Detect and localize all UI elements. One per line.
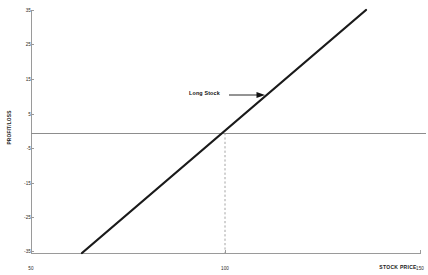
long-stock-payoff-line xyxy=(82,10,366,253)
plot-area xyxy=(0,0,428,275)
long-stock-annotation-label: Long Stock xyxy=(189,90,220,96)
chart-figure: 35 25 15 5 -5 -15 -25 -35 50 100 150 xyxy=(0,0,428,275)
